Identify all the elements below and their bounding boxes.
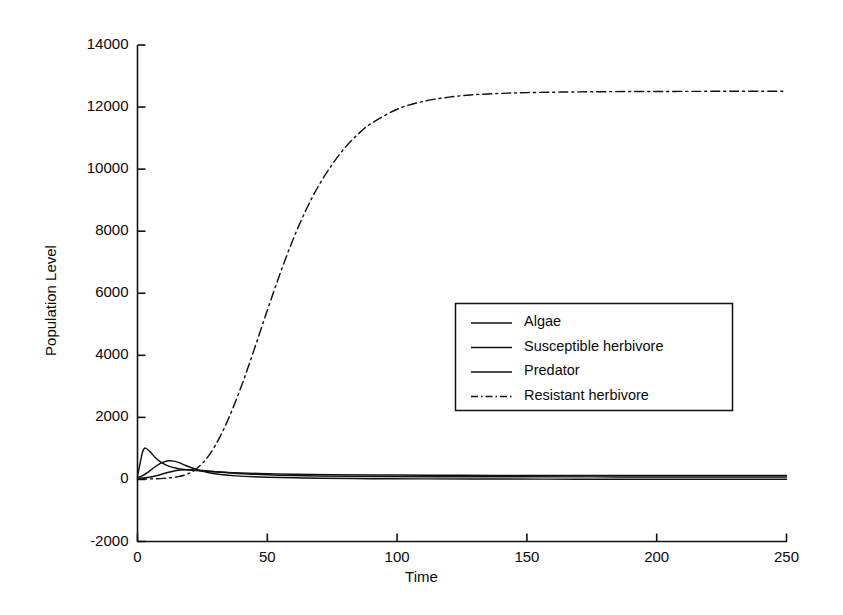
y-tick-label: 14000: [39, 35, 129, 52]
x-tick-label: 150: [487, 548, 567, 565]
y-tick-label: 0: [39, 469, 129, 486]
legend-label: Algae: [524, 313, 561, 329]
y-axis-label: Population Level: [42, 221, 59, 381]
legend-label: Susceptible herbivore: [524, 338, 663, 354]
x-tick-label: 100: [357, 548, 437, 565]
y-tick-label: 10000: [39, 159, 129, 176]
chart-figure: -200002000400060008000100001200014000 05…: [0, 0, 843, 615]
y-tick-label: -2000: [39, 532, 129, 549]
x-tick-label: 50: [227, 548, 307, 565]
legend-label: Resistant herbivore: [524, 387, 649, 403]
x-tick-label: 200: [617, 548, 697, 565]
y-tick-label: 2000: [39, 407, 129, 424]
y-tick-label: 12000: [39, 97, 129, 114]
chart-canvas: [0, 0, 843, 615]
x-tick-label: 0: [98, 548, 178, 565]
legend-label: Predator: [524, 362, 580, 378]
x-axis-label: Time: [0, 568, 843, 585]
x-tick-label: 250: [747, 548, 827, 565]
